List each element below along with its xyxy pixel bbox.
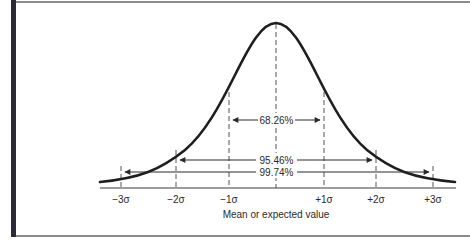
tick-label-minus-2-sigma: −2σ bbox=[167, 194, 185, 205]
frame-left-bar bbox=[11, 0, 16, 237]
tick-label-minus-3-sigma: −3σ bbox=[112, 194, 130, 205]
tick-label-plus-3-sigma: +3σ bbox=[424, 194, 442, 205]
interval-label-99: 99.74% bbox=[260, 167, 294, 178]
normal-distribution-figure: 68.26% 95.46% 99.74% −3σ −2σ −1σ +1σ +2σ… bbox=[0, 0, 470, 241]
tick-label-minus-1-sigma: −1σ bbox=[220, 194, 238, 205]
tick-label-plus-1-sigma: +1σ bbox=[315, 194, 333, 205]
interval-label-95: 95.46% bbox=[260, 155, 294, 166]
tick-label-plus-2-sigma: +2σ bbox=[367, 194, 385, 205]
chart-svg: 68.26% 95.46% 99.74% −3σ −2σ −1σ +1σ +2σ… bbox=[0, 0, 470, 241]
interval-label-68: 68.26% bbox=[260, 115, 294, 126]
x-axis-label: Mean or expected value bbox=[223, 209, 330, 220]
